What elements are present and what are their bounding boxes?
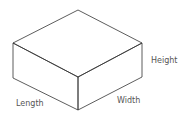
box-diagram: Length Width Height	[0, 0, 188, 120]
width-label: Width	[117, 96, 140, 105]
box-top-face	[13, 10, 142, 77]
height-label: Height	[151, 56, 177, 65]
length-label: Length	[16, 99, 44, 108]
